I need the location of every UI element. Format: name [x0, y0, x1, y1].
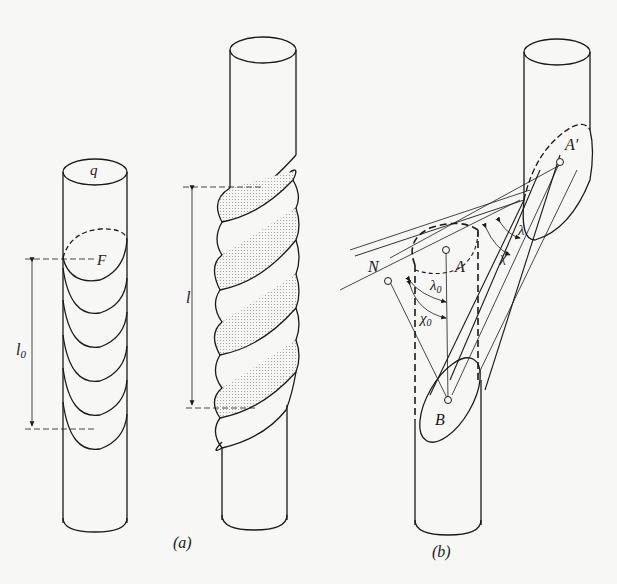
- panel-b-construction: [340, 162, 560, 400]
- label-A: A: [454, 258, 465, 275]
- label-A-prime: A′: [564, 136, 579, 153]
- panel-a-right-rod: [214, 37, 299, 530]
- panel-a-left-dimension: [25, 259, 95, 429]
- panel-a-left-rod: [63, 159, 127, 532]
- caption-b: (b): [432, 543, 451, 561]
- label-chi0: χ0: [418, 310, 432, 328]
- caption-a: (a): [173, 534, 192, 552]
- label-N: N: [367, 258, 380, 275]
- label-B: B: [435, 411, 445, 428]
- label-q: q: [90, 162, 98, 178]
- point-A: [443, 247, 450, 254]
- point-B: [445, 397, 452, 404]
- label-lambda: λ: [517, 222, 525, 238]
- label-chi: χ: [498, 249, 507, 265]
- label-l0: l0: [16, 341, 26, 360]
- label-F: F: [96, 252, 107, 268]
- label-l: l: [186, 289, 191, 306]
- slip-geometry-figure: q F l0 l (a): [0, 0, 617, 584]
- panel-b-points: [385, 159, 564, 404]
- point-N: [385, 278, 392, 285]
- panel-b-slip-band: [350, 155, 577, 395]
- panel-b-lower-rod: [407, 348, 492, 535]
- point-A-prime: [557, 159, 564, 166]
- label-lambda0: λ0: [429, 277, 442, 295]
